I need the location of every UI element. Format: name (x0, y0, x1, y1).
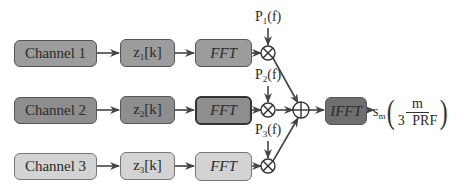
weight-p1-label: P1(f) (255, 9, 281, 26)
close-paren: ) (440, 95, 448, 129)
fft-1-label: FFT (210, 45, 237, 62)
ifft-label: IFFT (330, 103, 362, 120)
output-signal-label: sm ( m 3 PRF ) (373, 92, 450, 132)
fft-1-block: FFT (195, 39, 252, 67)
channel-1-label: Channel 1 (25, 45, 86, 62)
fft-2-block: FFT (195, 96, 252, 125)
output-symbol: sm (373, 104, 385, 121)
z2-sequence-block: z2[k] (120, 96, 175, 124)
z3-label: z3[k] (133, 157, 162, 175)
fft-2-label: FFT (210, 102, 237, 119)
summer-icon (293, 102, 309, 118)
weight-p3-label: P3(f) (255, 122, 281, 139)
fraction-denominator: 3 PRF (398, 113, 437, 129)
channel-3-label: Channel 3 (25, 158, 86, 175)
fft-3-block: FFT (195, 152, 252, 181)
weight-p2-label: P2(f) (255, 67, 281, 84)
fraction-numerator: m (406, 96, 429, 113)
fft-3-label: FFT (210, 158, 237, 175)
z3-sequence-block: z3[k] (120, 152, 175, 180)
z1-sequence-block: z1[k] (120, 39, 175, 67)
z1-label: z1[k] (133, 44, 162, 62)
channel-2-block: Channel 2 (14, 97, 97, 124)
ifft-block: IFFT (325, 97, 367, 125)
z2-label: z2[k] (133, 101, 162, 119)
block-diagram: Channel 1 z1[k] FFT P1(f) Channel 2 z2[k… (0, 0, 464, 193)
channel-2-label: Channel 2 (25, 102, 86, 119)
output-fraction: m 3 PRF (398, 96, 437, 129)
channel-1-block: Channel 1 (14, 40, 97, 67)
channel-3-block: Channel 3 (14, 153, 97, 180)
open-paren: ( (387, 95, 395, 129)
